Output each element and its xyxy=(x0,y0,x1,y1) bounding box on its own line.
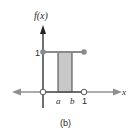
closed-point-right-icon xyxy=(81,49,87,55)
x-tick-label-b: b xyxy=(70,96,75,106)
shaded-region xyxy=(58,52,72,92)
open-point-one-icon xyxy=(81,89,87,95)
y-axis-label: f(x) xyxy=(34,10,49,22)
open-point-origin-icon xyxy=(40,89,46,95)
caption: (b) xyxy=(60,118,71,128)
y-tick-label: 1 xyxy=(35,48,40,58)
x-axis-label: x xyxy=(121,87,126,97)
closed-point-left-icon xyxy=(40,49,46,55)
x-axis-right-arrow-icon xyxy=(113,89,122,96)
diagram: f(x) 1 a b 1 x (b) xyxy=(0,0,134,134)
x-axis-left-arrow-icon xyxy=(12,89,21,96)
x-tick-label-one: 1 xyxy=(82,96,87,106)
y-axis-arrow-icon xyxy=(40,25,46,34)
x-tick-label-a: a xyxy=(56,96,61,106)
